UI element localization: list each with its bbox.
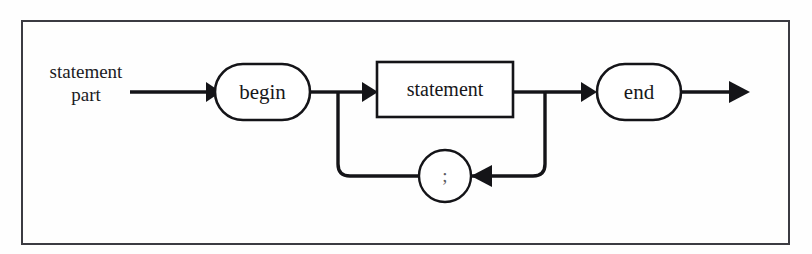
terminal-end-label: end	[624, 80, 655, 104]
rule-name-label-line2: part	[71, 84, 101, 105]
syntax-diagram-page: begin statement end ; statement part	[0, 0, 812, 254]
diagram-frame	[22, 21, 789, 244]
loop-arrow-icon	[471, 165, 492, 187]
exit-arrow-icon	[729, 81, 750, 103]
rule-name-label-line1: statement	[50, 61, 124, 82]
nonterminal-statement-label: statement	[407, 78, 484, 100]
terminal-semicolon-label: ;	[442, 165, 447, 186]
end-arrow-icon	[581, 82, 597, 102]
railroad-diagram-canvas: begin statement end ; statement part	[0, 0, 812, 254]
terminal-begin-label: begin	[239, 80, 286, 104]
statement-arrow-icon	[362, 82, 378, 102]
